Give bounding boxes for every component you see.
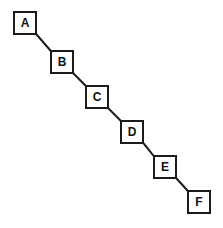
node-a[interactable]: A xyxy=(13,11,37,35)
diagram-canvas: ABCDEF xyxy=(0,0,223,228)
edge-e-to-f xyxy=(177,179,187,190)
node-e[interactable]: E xyxy=(153,155,177,179)
node-c[interactable]: C xyxy=(85,85,109,109)
edge-a-to-b xyxy=(37,35,50,50)
node-label-d: D xyxy=(128,126,137,138)
node-d[interactable]: D xyxy=(120,120,144,144)
node-label-e: E xyxy=(161,161,169,173)
edge-d-to-e xyxy=(144,144,153,155)
node-label-b: B xyxy=(58,56,67,68)
edge-c-to-d xyxy=(109,109,120,120)
node-b[interactable]: B xyxy=(50,50,74,74)
node-label-f: F xyxy=(195,196,202,208)
node-label-a: A xyxy=(21,17,30,29)
node-label-c: C xyxy=(93,91,102,103)
node-f[interactable]: F xyxy=(187,190,211,214)
edge-b-to-c xyxy=(74,74,85,85)
